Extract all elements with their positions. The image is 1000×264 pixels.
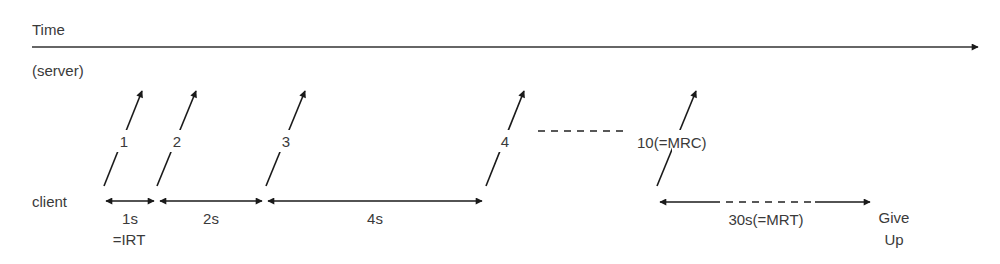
- interval-4s: 4s: [268, 201, 482, 227]
- transmission-10: 10(=MRC): [637, 91, 707, 186]
- interval-label: 1s: [122, 210, 138, 227]
- interval-1s: 1s =IRT: [106, 201, 154, 248]
- interval-label: 30s(=MRT): [728, 211, 803, 228]
- retransmission-diagram: Time (server) 1 2 3 4 10(=MRC) client 1s…: [0, 0, 1000, 264]
- transmission-label: 1: [120, 133, 128, 150]
- interval-30s-mrt: 30s(=MRT): [660, 202, 870, 228]
- give-up-label: Give Up: [879, 209, 910, 248]
- interval-label: 4s: [367, 210, 383, 227]
- transmission-4: 4: [486, 91, 524, 186]
- interval-label: 2s: [203, 210, 219, 227]
- svg-text:Give: Give: [879, 209, 910, 226]
- interval-sublabel: =IRT: [113, 231, 146, 248]
- transmission-2: 2: [157, 91, 196, 186]
- transmission-label: 2: [173, 133, 181, 150]
- transmission-label: 4: [501, 133, 509, 150]
- transmission-1: 1: [104, 91, 142, 186]
- client-label: client: [32, 193, 68, 210]
- time-label: Time: [32, 21, 65, 38]
- interval-2s: 2s: [160, 201, 262, 227]
- transmission-label: 10(=MRC): [637, 134, 707, 151]
- transmission-3: 3: [266, 91, 305, 186]
- svg-text:Up: Up: [884, 231, 903, 248]
- server-label: (server): [32, 62, 84, 79]
- transmission-label: 3: [282, 133, 290, 150]
